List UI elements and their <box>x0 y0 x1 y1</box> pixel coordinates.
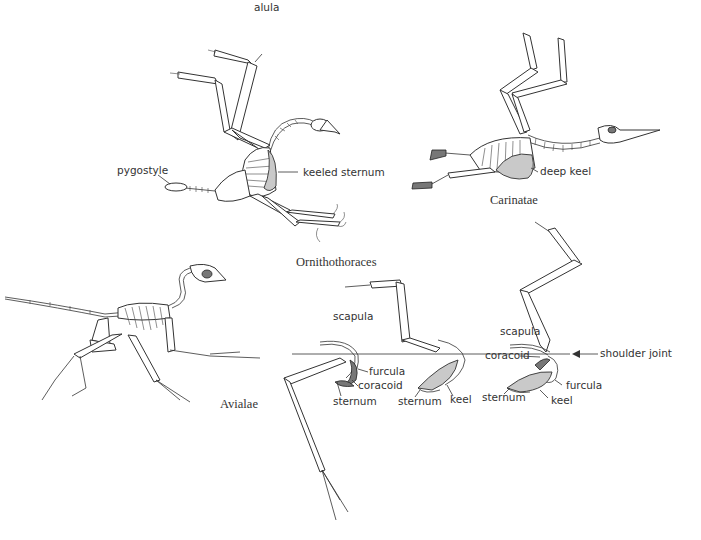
figure-canvas <box>0 0 701 540</box>
tail-vertebrae <box>185 188 215 191</box>
hand-bone <box>535 222 550 232</box>
label-keel-right: keel <box>551 395 573 406</box>
label-coracoid-right: coracoid <box>485 350 530 361</box>
taxon-carinatae: Carinatae <box>490 194 538 207</box>
label-coracoid-left: coracoid <box>358 380 403 391</box>
foot <box>156 380 190 402</box>
furcula-leader-right <box>555 380 562 385</box>
label-pygostyle: pygostyle <box>117 165 168 176</box>
keel-leader-right <box>540 390 548 398</box>
keel-right <box>507 372 552 392</box>
label-deep-keel: deep keel <box>540 166 591 177</box>
wing-hand-bone <box>558 38 567 82</box>
neck-vertebrae <box>528 135 600 143</box>
label-sternum-middle: sternum <box>398 396 442 407</box>
furcula-left <box>346 360 357 384</box>
ornithothoraces-skeleton <box>158 50 346 242</box>
wing-forearm-bone <box>230 62 257 140</box>
pelvis <box>215 170 250 201</box>
neck-vertebrae <box>268 118 315 150</box>
label-shoulder-joint: shoulder joint <box>600 348 672 359</box>
alula-leader <box>255 54 262 62</box>
foot <box>170 350 260 358</box>
label-scapula-right: scapula <box>500 326 540 337</box>
wing-forearm-bone <box>215 80 230 132</box>
leg-bone <box>128 335 160 382</box>
humerus-bone <box>224 128 270 150</box>
taxon-ornithothoraces: Ornithothoraces <box>296 256 377 269</box>
wing-hand-bone <box>214 50 252 64</box>
label-alula: alula <box>254 2 279 13</box>
label-sternum-left: sternum <box>333 396 377 407</box>
carinatae-skeleton <box>412 33 660 189</box>
leg-bone <box>448 168 495 178</box>
label-sternum-right: sternum <box>482 392 526 403</box>
shoulder-right <box>504 222 598 398</box>
digits <box>322 470 348 520</box>
leg-bone <box>165 318 175 352</box>
foot <box>430 175 448 185</box>
furcula-leader-left <box>358 369 368 372</box>
label-furcula-right: furcula <box>566 380 602 391</box>
coracoid-right <box>535 359 550 370</box>
label-keel-middle: keel <box>450 394 472 405</box>
label-furcula-left: furcula <box>369 366 405 377</box>
tail <box>445 153 470 155</box>
avialae-skeleton <box>5 264 260 402</box>
arrowhead-icon <box>572 350 580 358</box>
foot <box>42 356 74 400</box>
skull <box>598 125 660 143</box>
hand-bone <box>345 285 370 287</box>
pygostyle <box>165 183 187 191</box>
shoulder-left <box>284 341 368 520</box>
label-scapula-left: scapula <box>333 311 373 322</box>
wing-hand-bone <box>178 72 218 84</box>
label-keeled-sternum: keeled sternum <box>303 167 385 178</box>
leg-bone <box>296 220 340 226</box>
neck-vertebrae <box>168 268 190 306</box>
pygostyle-leader <box>158 175 170 184</box>
keel-middle <box>418 360 458 390</box>
taxon-avialae: Avialae <box>220 398 258 411</box>
tail-feet <box>430 150 446 160</box>
wing-hand-bone <box>523 33 537 70</box>
